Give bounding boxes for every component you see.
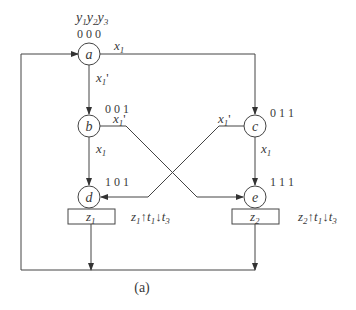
edge-a-c-cond: x1 [113, 38, 124, 55]
output-z1-action: z1↑t1↓t3 [130, 209, 170, 226]
edge-a-b-cond: x1' [95, 70, 109, 87]
output-z1-label: z1 [85, 209, 96, 226]
state-diagram: y1y2y3 0 0 0 a x1 x1' 0 0 1 b x1 x1' 0 1… [0, 0, 356, 310]
state-e-code: 1 1 1 [270, 175, 294, 189]
edge-c-e-cond: x1 [260, 141, 271, 158]
edge-return-a [21, 54, 255, 270]
output-z2-label: z2 [249, 209, 260, 226]
state-a-code: 0 0 0 [77, 27, 101, 41]
state-a-label: a [86, 47, 93, 62]
state-d-label: d [86, 190, 94, 205]
state-vars-header: y1y2y3 [74, 10, 109, 27]
edge-b-d-cond: x1 [95, 141, 106, 158]
figure-caption: (a) [134, 280, 150, 296]
state-c-code: 0 1 1 [270, 106, 294, 120]
output-z2-action: z2↑t1↓t3 [297, 209, 337, 226]
state-c-label: c [252, 119, 259, 134]
edge-c-d-cond: x1' [217, 111, 231, 128]
state-e-label: e [252, 190, 258, 205]
state-d-code: 1 0 1 [105, 175, 129, 189]
state-b-label: b [86, 119, 93, 134]
